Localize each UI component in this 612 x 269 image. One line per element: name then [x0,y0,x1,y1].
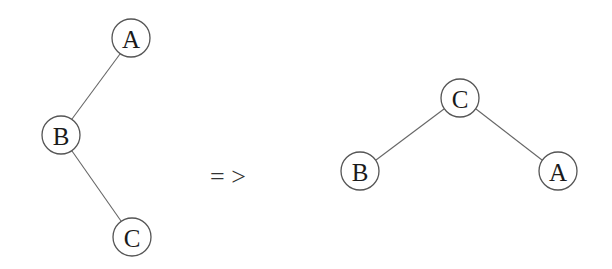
node-label: C [124,225,141,252]
node-label: B [352,159,369,186]
before-tree: A B C [42,19,151,256]
node-label: C [452,86,469,113]
node-label: A [122,26,140,53]
node-c-before: C [113,218,151,256]
node-a-after: A [539,152,577,190]
node-c-after: C [441,79,479,117]
edge-c-a [476,109,542,160]
tree-rotation-diagram: A B C = > C B A [0,0,612,269]
node-a-before: A [112,19,150,57]
node-label: B [53,123,70,150]
edge-a-b [72,54,120,119]
after-tree: C B A [341,79,577,190]
edge-b-c [72,151,121,221]
node-b-before: B [42,116,80,154]
transform-arrow: = > [210,162,246,191]
node-label: A [549,159,567,186]
edge-c-b [376,109,444,160]
node-b-after: B [341,152,379,190]
